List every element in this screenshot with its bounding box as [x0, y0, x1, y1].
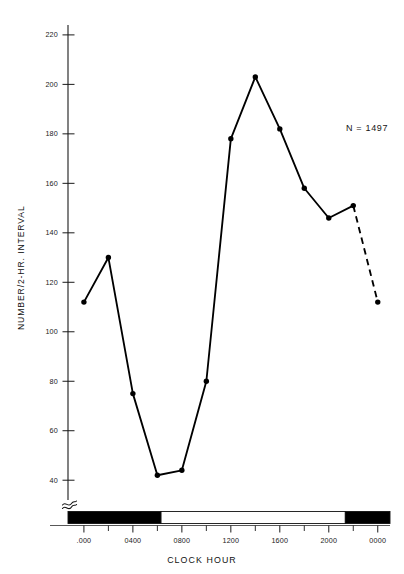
y-tick-label: 60: [50, 426, 58, 435]
chart-background: [0, 0, 404, 574]
data-point: [351, 203, 356, 208]
y-tick-label: 220: [45, 30, 58, 39]
chart-canvas: 406080100120140160180200220 NUMBER/2-HR.…: [0, 0, 404, 574]
data-point: [326, 215, 331, 220]
y-tick-label: 120: [45, 278, 58, 287]
y-tick-label: 160: [45, 179, 58, 188]
chart-figure: 406080100120140160180200220 NUMBER/2-HR.…: [0, 0, 404, 574]
data-point: [130, 391, 135, 396]
x-tick-label: 1200: [222, 536, 239, 545]
day-night-bar: [68, 512, 390, 524]
data-point: [155, 473, 160, 478]
y-tick-label: 180: [45, 129, 58, 138]
sample-size-annotation: N = 1497: [346, 123, 388, 133]
day-night-segment-night: [345, 512, 390, 524]
y-axis-title: NUMBER/2-HR. INTERVAL: [16, 205, 26, 330]
x-tick-label: 0000: [369, 536, 386, 545]
data-point: [228, 136, 233, 141]
x-tick-label: 1600: [271, 536, 288, 545]
x-tick-label: 2000: [320, 536, 337, 545]
data-point: [253, 74, 258, 79]
y-tick-label: 80: [50, 377, 58, 386]
x-tick-label: 0800: [173, 536, 190, 545]
data-point: [204, 379, 209, 384]
y-tick-label: 100: [45, 327, 58, 336]
y-tick-label: 200: [45, 80, 58, 89]
data-point: [277, 126, 282, 131]
x-axis-title: CLOCK HOUR: [167, 555, 237, 565]
data-point: [375, 299, 380, 304]
data-point: [302, 186, 307, 191]
y-tick-label: 40: [50, 476, 58, 485]
day-night-segment-day: [161, 512, 345, 524]
x-tick-label: 0400: [124, 536, 141, 545]
data-point: [179, 468, 184, 473]
x-tick-label: .000: [77, 536, 92, 545]
day-night-segment-night: [68, 512, 161, 524]
y-tick-label: 140: [45, 228, 58, 237]
data-point: [81, 299, 86, 304]
data-point: [106, 255, 111, 260]
